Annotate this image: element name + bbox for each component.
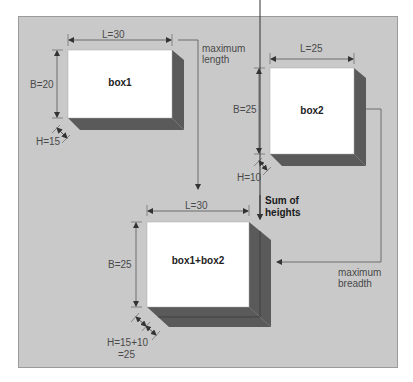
box1-breadth-label: B=20 (30, 79, 54, 91)
box2-length-label: L=25 (300, 43, 323, 55)
max-length-label-line2: length (202, 54, 229, 66)
combined-height-label-line2: =25 (118, 349, 135, 361)
sum-heights-label-line1: Sum of (265, 195, 299, 207)
box1-length-label: L=30 (102, 29, 125, 41)
combined-box-label: box1+box2 (147, 255, 249, 266)
max-breadth-label-line2: breadth (338, 278, 372, 290)
combined-length-label: L=30 (185, 200, 208, 212)
box2-label: box2 (270, 105, 354, 116)
box2-breadth-label: B=25 (233, 104, 257, 116)
combined-box-shape (147, 222, 271, 327)
combined-height-label-line1: H=15+10 (107, 337, 148, 349)
box2-height-label: H=10 (237, 172, 261, 184)
box1-height-label: H=15 (36, 136, 60, 148)
box1-shape (68, 50, 184, 130)
box2-shape (270, 68, 366, 166)
combined-breadth-label: B=25 (108, 259, 132, 271)
sum-heights-label-line2: heights (265, 207, 301, 219)
box1-label: box1 (68, 77, 172, 88)
